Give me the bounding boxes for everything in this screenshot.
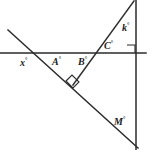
angle-label-C: C° — [104, 40, 113, 51]
angle-label-M: M° — [114, 116, 125, 127]
geometry-figure: x° A° B° C° k° M° — [0, 0, 149, 150]
degree-symbol-B: ° — [85, 56, 87, 62]
descending-diagonal-line — [8, 30, 138, 148]
degree-symbol-k: ° — [127, 22, 129, 28]
angle-label-B: B° — [78, 56, 87, 67]
angle-label-A: A° — [52, 56, 61, 67]
degree-symbol-x: ° — [25, 57, 27, 63]
degree-symbol-M: ° — [123, 116, 125, 122]
angle-label-x: x° — [20, 57, 27, 68]
right-angle-marker-upper-right — [127, 45, 135, 53]
degree-symbol-C: ° — [111, 40, 113, 46]
angle-label-k: k° — [122, 22, 129, 33]
degree-symbol-A: ° — [59, 56, 61, 62]
right-angle-marker-lower — [66, 75, 79, 88]
